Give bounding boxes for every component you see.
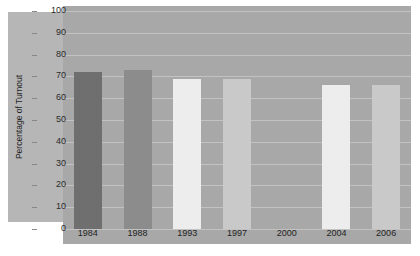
- x-tick-label-1984: 1984: [63, 228, 113, 239]
- plot-area: [63, 6, 411, 244]
- bar-1993: [173, 79, 201, 229]
- y-tick-label: 10: [56, 202, 66, 211]
- bar-1988: [124, 70, 152, 229]
- x-tick-label-2006: 2006: [361, 228, 411, 239]
- y-tick-label: 100: [51, 6, 66, 15]
- x-axis: 1984198819931997200020042006: [63, 228, 411, 244]
- y-axis: 0102030405060708090100: [38, 0, 66, 256]
- x-tick-label-2004: 2004: [312, 228, 362, 239]
- chart-screenshot: 0102030405060708090100 Percentage of Tur…: [0, 0, 420, 256]
- y-tick-label: 40: [56, 137, 66, 146]
- y-tick-label: 70: [56, 71, 66, 80]
- y-tick-mark: [32, 120, 37, 121]
- y-tick-label: 60: [56, 93, 66, 102]
- y-tick-mark: [32, 229, 37, 230]
- bar-2004: [322, 85, 350, 229]
- y-tick-label: 30: [56, 159, 66, 168]
- y-tick-mark: [32, 142, 37, 143]
- y-axis-title: Percentage of Turnout: [14, 67, 24, 167]
- x-tick-label-1993: 1993: [162, 228, 212, 239]
- bar-series: [63, 6, 411, 244]
- y-tick-mark: [32, 185, 37, 186]
- bar-1997: [223, 79, 251, 229]
- y-tick-label: 90: [56, 28, 66, 37]
- y-tick-mark: [32, 207, 37, 208]
- y-tick-label: 50: [56, 115, 66, 124]
- x-tick-label-1988: 1988: [113, 228, 163, 239]
- y-tick-mark: [32, 33, 37, 34]
- bar-2006: [372, 85, 400, 229]
- y-tick-mark: [32, 11, 37, 12]
- y-tick-mark: [32, 76, 37, 77]
- x-tick-label-1997: 1997: [212, 228, 262, 239]
- y-tick-mark: [32, 98, 37, 99]
- y-tick-mark: [32, 164, 37, 165]
- y-tick-label: 80: [56, 50, 66, 59]
- y-tick-mark: [32, 55, 37, 56]
- x-tick-label-2000: 2000: [262, 228, 312, 239]
- bar-1984: [74, 72, 102, 229]
- y-tick-label: 20: [56, 180, 66, 189]
